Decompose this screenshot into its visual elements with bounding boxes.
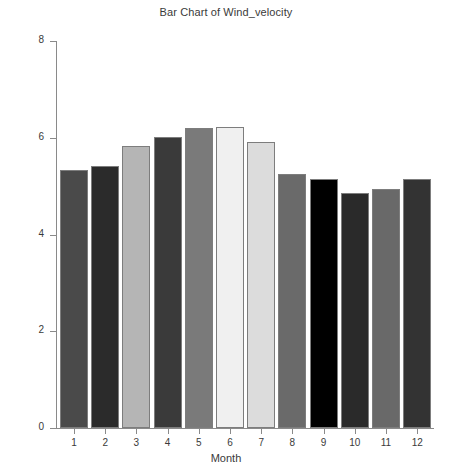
x-tick-label: 7 [246,437,276,448]
plot-area: Wind_velocity [56,41,442,428]
bar [310,179,338,428]
x-tick-label: 11 [371,437,401,448]
x-tick-label: 3 [121,437,151,448]
x-tick [230,428,231,434]
x-tick [74,428,75,434]
y-tick-label: 8 [22,34,44,45]
x-tick-label: 1 [59,437,89,448]
x-tick-label: 5 [184,437,214,448]
bar [185,128,213,428]
x-tick [136,428,137,434]
bar [60,170,88,428]
x-tick [105,428,106,434]
x-tick [355,428,356,434]
bar-chart: Bar Chart of Wind_velocity 02468 1234567… [0,0,452,470]
y-tick-label: 4 [22,228,44,239]
y-tick-label: 6 [22,131,44,142]
bar [122,146,150,428]
bar [341,193,369,428]
x-tick [417,428,418,434]
x-tick [386,428,387,434]
x-tick-label: 10 [340,437,370,448]
bar [216,127,244,428]
bar [403,179,431,428]
x-tick [168,428,169,434]
y-tick-label: 2 [22,324,44,335]
bar [278,174,306,428]
x-axis-line [56,428,434,429]
y-tick [50,428,56,429]
x-tick-label: 8 [277,437,307,448]
y-tick-label: 0 [22,421,44,432]
x-axis-label: Month [0,452,452,464]
chart-title: Bar Chart of Wind_velocity [0,6,452,18]
x-tick-label: 12 [402,437,432,448]
x-tick-label: 6 [215,437,245,448]
bar [372,189,400,428]
x-tick-label: 4 [153,437,183,448]
bar [247,142,275,428]
x-tick [199,428,200,434]
x-tick-label: 2 [90,437,120,448]
x-tick [292,428,293,434]
x-tick-label: 9 [309,437,339,448]
x-tick [261,428,262,434]
x-tick [324,428,325,434]
bar [154,137,182,428]
bar [91,166,119,428]
